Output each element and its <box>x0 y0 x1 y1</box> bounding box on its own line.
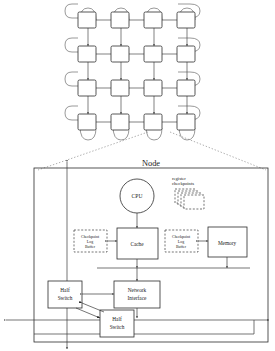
cache-label: Cache <box>130 241 144 247</box>
half-switch-diagonal-link-2 <box>82 303 104 312</box>
torus-row-wrap-arcs <box>65 4 78 120</box>
clb-left-line3: Buffer <box>85 245 96 249</box>
torus-node[interactable] <box>177 12 195 28</box>
torus-node[interactable] <box>78 12 96 28</box>
half-switch-upper-line1: Half <box>60 287 70 293</box>
torus-vertical-links <box>88 28 187 114</box>
node-detail: Node CPU register checkpoints <box>6 159 269 349</box>
clb-left-line2: Log <box>87 240 93 244</box>
clb-right-line1: Checkpoint <box>172 235 191 239</box>
wrap-arc-row-2-left <box>65 38 78 52</box>
cpu-label: CPU <box>132 193 143 199</box>
network-interface-line2: Interface <box>128 295 147 301</box>
half-switch-diagonal-link-1 <box>76 308 100 318</box>
clb-left-line1: Checkpoint <box>81 235 100 239</box>
figure-canvas: Node CPU register checkpoints <box>0 0 275 351</box>
torus-node[interactable] <box>78 114 96 130</box>
network-interface-line1: Network <box>128 287 147 293</box>
torus-node[interactable] <box>144 80 162 96</box>
half-switch-upper-line2: Switch <box>58 295 73 301</box>
torus-node[interactable] <box>111 80 129 96</box>
torus-node[interactable] <box>78 46 96 62</box>
wrap-arc-row-3-left <box>65 72 78 86</box>
torus-node[interactable] <box>177 114 195 130</box>
torus-node[interactable] <box>144 46 162 62</box>
torus-node[interactable] <box>111 46 129 62</box>
torus-horizontal-links <box>96 20 179 122</box>
node-title: Node <box>142 159 160 168</box>
expansion-line-right <box>170 132 266 170</box>
wrap-arc-row-4-left <box>65 106 78 120</box>
architecture-diagram: Node CPU register checkpoints <box>0 0 275 351</box>
register-checkpoints-stack <box>175 189 204 209</box>
clb-right-line3: Buffer <box>176 245 187 249</box>
memory-label: Memory <box>218 240 237 246</box>
clb-right-line2: Log <box>178 240 184 244</box>
torus-node-boxes <box>78 12 195 130</box>
half-switch-lower-line1: Half <box>112 316 122 322</box>
register-checkpoint-box <box>184 195 204 209</box>
register-checkpoints-label-line2: checkpoints <box>172 181 194 186</box>
torus-node[interactable] <box>111 12 129 28</box>
torus-node[interactable] <box>111 114 129 130</box>
torus-node[interactable] <box>78 80 96 96</box>
torus-node[interactable] <box>144 12 162 28</box>
torus-node[interactable] <box>177 46 195 62</box>
half-switch-lower-line2: Switch <box>110 324 125 330</box>
torus-node[interactable] <box>177 80 195 96</box>
torus-node-selected[interactable] <box>144 114 162 130</box>
wrap-arc-row-1-left <box>65 4 78 18</box>
torus-network <box>65 4 200 140</box>
